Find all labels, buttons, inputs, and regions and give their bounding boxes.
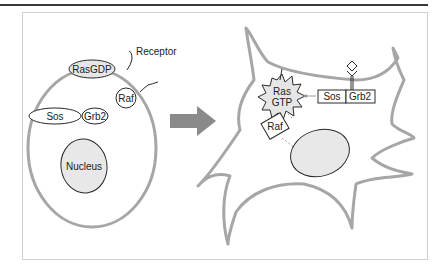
grb2-label: Grb2	[84, 111, 107, 122]
ligand-icon	[347, 61, 357, 71]
left-cell: Receptor RasGDP Raf Sos Grb2 Nucleus	[28, 46, 177, 227]
receptor-pointer	[127, 51, 132, 70]
raf-label: Raf	[118, 93, 134, 104]
raf-pointer	[140, 82, 158, 92]
nucleus-active	[284, 122, 355, 184]
receptor-label: Receptor	[136, 46, 177, 57]
gtp-label: GTP	[272, 97, 293, 108]
ras-signaling-diagram: Receptor RasGDP Raf Sos Grb2 Nucleus Ras…	[0, 0, 445, 269]
right-cell: Ras GTP Raf Sos Grb2	[198, 28, 414, 244]
transition-arrow-icon	[170, 106, 216, 136]
nucleus-label: Nucleus	[66, 161, 102, 172]
ras-label: Ras	[273, 86, 291, 97]
raf-label-active: Raf	[267, 121, 283, 132]
sos-label: Sos	[46, 111, 63, 122]
ras-gdp-label: RasGDP	[72, 64, 112, 75]
grb2-label-active: Grb2	[349, 91, 372, 102]
sos-label-active: Sos	[323, 91, 340, 102]
